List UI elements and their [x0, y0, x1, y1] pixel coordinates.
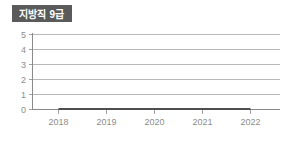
x-tick-label-2021: 2021: [192, 117, 212, 127]
y-tick-label-1: 1: [21, 90, 26, 100]
gridlines: [33, 35, 281, 95]
x-tick-label-2020: 2020: [144, 117, 164, 127]
y-tick-labels: 5 4 3 2 1 0: [21, 30, 26, 115]
x-tick-marks: [59, 110, 251, 114]
y-tick-label-0: 0: [21, 105, 26, 115]
y-tick-label-2: 2: [21, 75, 26, 85]
line-chart: 5 4 3 2 1 0 2018 2019 2020 2021 2022: [0, 28, 289, 142]
y-tick-label-5: 5: [21, 30, 26, 40]
y-tick-label-3: 3: [21, 60, 26, 70]
x-tick-label-2019: 2019: [96, 117, 116, 127]
chart-title-badge: 지방직 9급: [12, 5, 72, 22]
y-tick-label-4: 4: [21, 45, 26, 55]
x-tick-labels: 2018 2019 2020 2021 2022: [48, 117, 260, 127]
chart-svg: 5 4 3 2 1 0 2018 2019 2020 2021 2022: [0, 28, 289, 142]
y-tick-marks: [29, 35, 33, 110]
x-tick-label-2018: 2018: [48, 117, 68, 127]
x-tick-label-2022: 2022: [240, 117, 260, 127]
chart-title-badge-label: 지방직 9급: [19, 6, 65, 21]
